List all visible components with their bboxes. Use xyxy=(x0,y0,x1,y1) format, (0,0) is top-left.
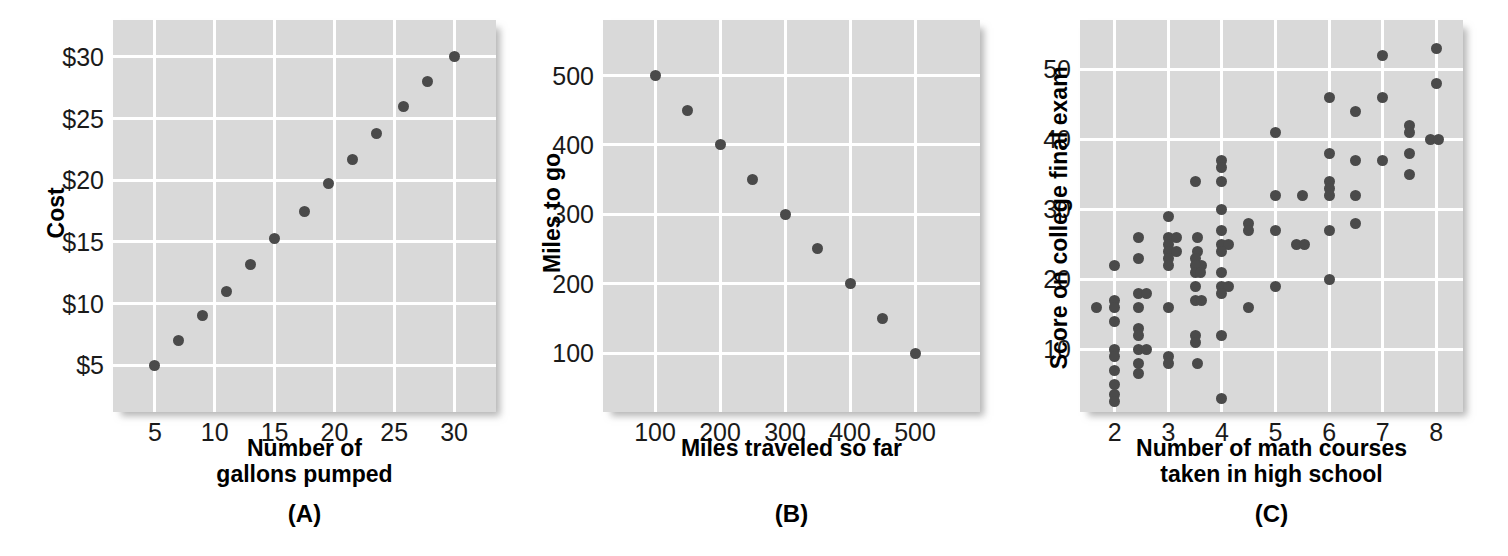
data-point xyxy=(1431,43,1442,54)
gridline-horizontal xyxy=(113,364,496,367)
data-point xyxy=(398,101,409,112)
gridline-horizontal xyxy=(1080,138,1463,141)
data-point xyxy=(1196,295,1207,306)
data-point xyxy=(1109,379,1120,390)
data-point xyxy=(347,154,358,165)
data-point xyxy=(1270,225,1281,236)
data-point xyxy=(449,51,460,62)
data-point xyxy=(1133,302,1144,313)
data-point xyxy=(1324,274,1335,285)
data-point xyxy=(1350,190,1361,201)
data-point xyxy=(1404,169,1415,180)
gridline-horizontal xyxy=(113,179,496,182)
data-point xyxy=(780,209,791,220)
gridline-vertical xyxy=(273,20,276,412)
data-point xyxy=(299,206,310,217)
gridline-vertical xyxy=(1328,20,1331,412)
plot-area-a xyxy=(113,20,496,412)
data-point xyxy=(1091,302,1102,313)
data-point xyxy=(1190,281,1201,292)
data-point xyxy=(1324,190,1335,201)
data-point xyxy=(1216,267,1227,278)
data-point xyxy=(1404,148,1415,159)
gridline-horizontal xyxy=(1080,68,1463,71)
plot-area-c xyxy=(1080,20,1463,412)
data-point xyxy=(221,286,232,297)
data-point xyxy=(422,76,433,87)
data-point xyxy=(715,139,726,150)
gridline-vertical xyxy=(1381,20,1384,412)
data-point xyxy=(1299,239,1310,250)
data-point xyxy=(1190,337,1201,348)
data-point xyxy=(197,310,208,321)
data-point xyxy=(845,278,856,289)
panel-c: 10203040502345678 Score on college final… xyxy=(1010,0,1508,556)
gridline-horizontal xyxy=(603,282,980,285)
y-tick-label: $10 xyxy=(0,289,104,318)
data-point xyxy=(1190,176,1201,187)
data-point xyxy=(1109,396,1120,407)
x-axis-title-a: Number of gallons pumped xyxy=(113,436,496,488)
data-point xyxy=(1171,232,1182,243)
gridline-horizontal xyxy=(603,352,980,355)
data-point xyxy=(1270,190,1281,201)
data-point xyxy=(1431,78,1442,89)
gridline-horizontal xyxy=(1080,278,1463,281)
data-point xyxy=(1133,232,1144,243)
data-point xyxy=(371,128,382,139)
data-point xyxy=(1297,190,1308,201)
data-point xyxy=(1133,358,1144,369)
data-point xyxy=(910,348,921,359)
panel-b: 100200300400500100200300400500 Miles to … xyxy=(510,0,1010,556)
data-point xyxy=(682,105,693,116)
gridline-vertical xyxy=(213,20,216,412)
gridline-horizontal xyxy=(1080,208,1463,211)
scatterplot-figure: $5$10$15$20$25$3051015202530 Cost Number… xyxy=(0,0,1508,556)
panel-label-c: (C) xyxy=(1070,500,1473,528)
data-point xyxy=(747,174,758,185)
gridline-vertical xyxy=(1220,20,1223,412)
data-point xyxy=(1163,211,1174,222)
data-point xyxy=(1133,330,1144,341)
data-point xyxy=(1324,148,1335,159)
data-point xyxy=(877,313,888,324)
data-point xyxy=(1141,344,1152,355)
data-point xyxy=(1163,302,1174,313)
data-point xyxy=(1133,368,1144,379)
data-point xyxy=(1192,358,1203,369)
gridline-vertical xyxy=(849,20,852,412)
gridline-vertical xyxy=(393,20,396,412)
data-point xyxy=(1141,288,1152,299)
data-point xyxy=(1192,232,1203,243)
data-point xyxy=(1270,127,1281,138)
data-point xyxy=(1216,176,1227,187)
y-axis-title-a: Cost xyxy=(44,153,70,273)
x-axis-title-c: Number of math courses taken in high sch… xyxy=(1070,436,1473,488)
panel-label-a: (A) xyxy=(113,500,496,528)
data-point xyxy=(269,233,280,244)
data-point xyxy=(1243,225,1254,236)
panel-a: $5$10$15$20$25$3051015202530 Cost Number… xyxy=(0,0,510,556)
data-point xyxy=(650,70,661,81)
data-point xyxy=(1216,204,1227,215)
data-point xyxy=(1350,155,1361,166)
data-point xyxy=(1195,267,1206,278)
data-point xyxy=(1216,288,1227,299)
gridline-horizontal xyxy=(113,117,496,120)
gridline-vertical xyxy=(453,20,456,412)
data-point xyxy=(1163,358,1174,369)
data-point xyxy=(1377,92,1388,103)
y-axis-title-c: Score on college final exam xyxy=(1047,18,1073,418)
data-point xyxy=(1163,260,1174,271)
data-point xyxy=(1270,281,1281,292)
data-point xyxy=(1433,134,1444,145)
data-point xyxy=(149,360,160,371)
gridline-vertical xyxy=(1274,20,1277,412)
y-tick-label: $25 xyxy=(0,104,104,133)
gridline-vertical xyxy=(333,20,336,412)
y-axis-title-b: Miles to go xyxy=(540,113,566,313)
data-point xyxy=(1109,365,1120,376)
y-tick-label: 500 xyxy=(510,61,594,90)
data-point xyxy=(1109,302,1120,313)
data-point xyxy=(1243,302,1254,313)
